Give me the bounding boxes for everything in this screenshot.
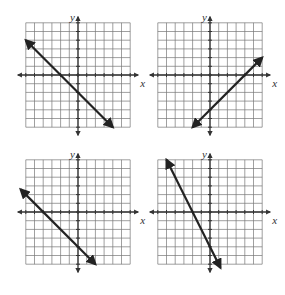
y-axis-label: y [69, 11, 75, 23]
x-axis-label: x [271, 77, 277, 89]
graph-3: xy [18, 148, 145, 272]
x-axis-label: x [139, 77, 145, 89]
axes [150, 17, 270, 135]
x-axis-label: x [139, 214, 145, 226]
axes [18, 154, 138, 272]
plotted-line [21, 189, 96, 264]
axes [150, 154, 270, 272]
graphs-canvas: xyxyxyxy [0, 0, 285, 295]
graph-2: xy [150, 11, 277, 135]
y-axis-label: y [69, 148, 75, 160]
graph-4: xy [150, 148, 277, 272]
x-axis-label: x [271, 214, 277, 226]
y-axis-label: y [201, 11, 207, 23]
plotted-line [167, 160, 221, 268]
graph-1: xy [18, 11, 145, 135]
axes [18, 17, 138, 135]
y-axis-label: y [201, 148, 207, 160]
